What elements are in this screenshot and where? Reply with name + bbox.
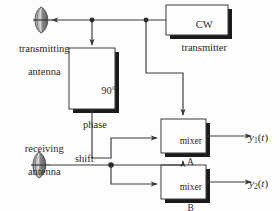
- output-2-argument: (t): [258, 177, 268, 189]
- output-1-label: y1(t): [238, 120, 268, 157]
- receiving-antenna-label: receiving antenna: [4, 132, 74, 189]
- output-2-time-variable: t: [261, 177, 264, 189]
- radar-block-diagram: CW transmitter 90° phase shift mixer A m…: [0, 0, 280, 211]
- mixer-b-line1: mixer: [180, 182, 202, 192]
- phase-shift-line1: 90°: [72, 85, 118, 96]
- cw-transmitter-line2: transmitter: [182, 42, 228, 53]
- transmitting-antenna-line1: transmitting: [19, 43, 70, 54]
- receiving-antenna-line1: receiving: [25, 143, 64, 154]
- output-2-label: y2(t): [238, 166, 268, 203]
- mixer-a-label: mixer A: [164, 126, 208, 177]
- mixer-b-line2: B: [188, 203, 194, 211]
- output-1-time-variable: t: [261, 131, 264, 143]
- phase-shift-line3: shift: [72, 153, 118, 164]
- junction-dot-phase-branch: [90, 18, 95, 23]
- transmitting-antenna-line2: antenna: [28, 66, 61, 77]
- phase-shift-line2: phase: [72, 119, 118, 130]
- mixer-a-line2: A: [187, 157, 194, 167]
- cw-transmitter-label: CW transmitter: [168, 8, 230, 65]
- mixer-b-label: mixer B: [164, 172, 208, 211]
- mixer-a-line1: mixer: [180, 136, 202, 146]
- output-1-argument: (t): [258, 131, 268, 143]
- junction-dot-mixer-a-branch: [144, 18, 149, 23]
- transmitting-antenna-icon: [33, 7, 52, 33]
- receiving-antenna-line2: antenna: [28, 166, 61, 177]
- phase-shift-label: 90° phase shift: [72, 62, 118, 187]
- transmitting-antenna-label: transmitting antenna: [2, 32, 76, 89]
- cw-transmitter-line1: CW: [196, 19, 213, 30]
